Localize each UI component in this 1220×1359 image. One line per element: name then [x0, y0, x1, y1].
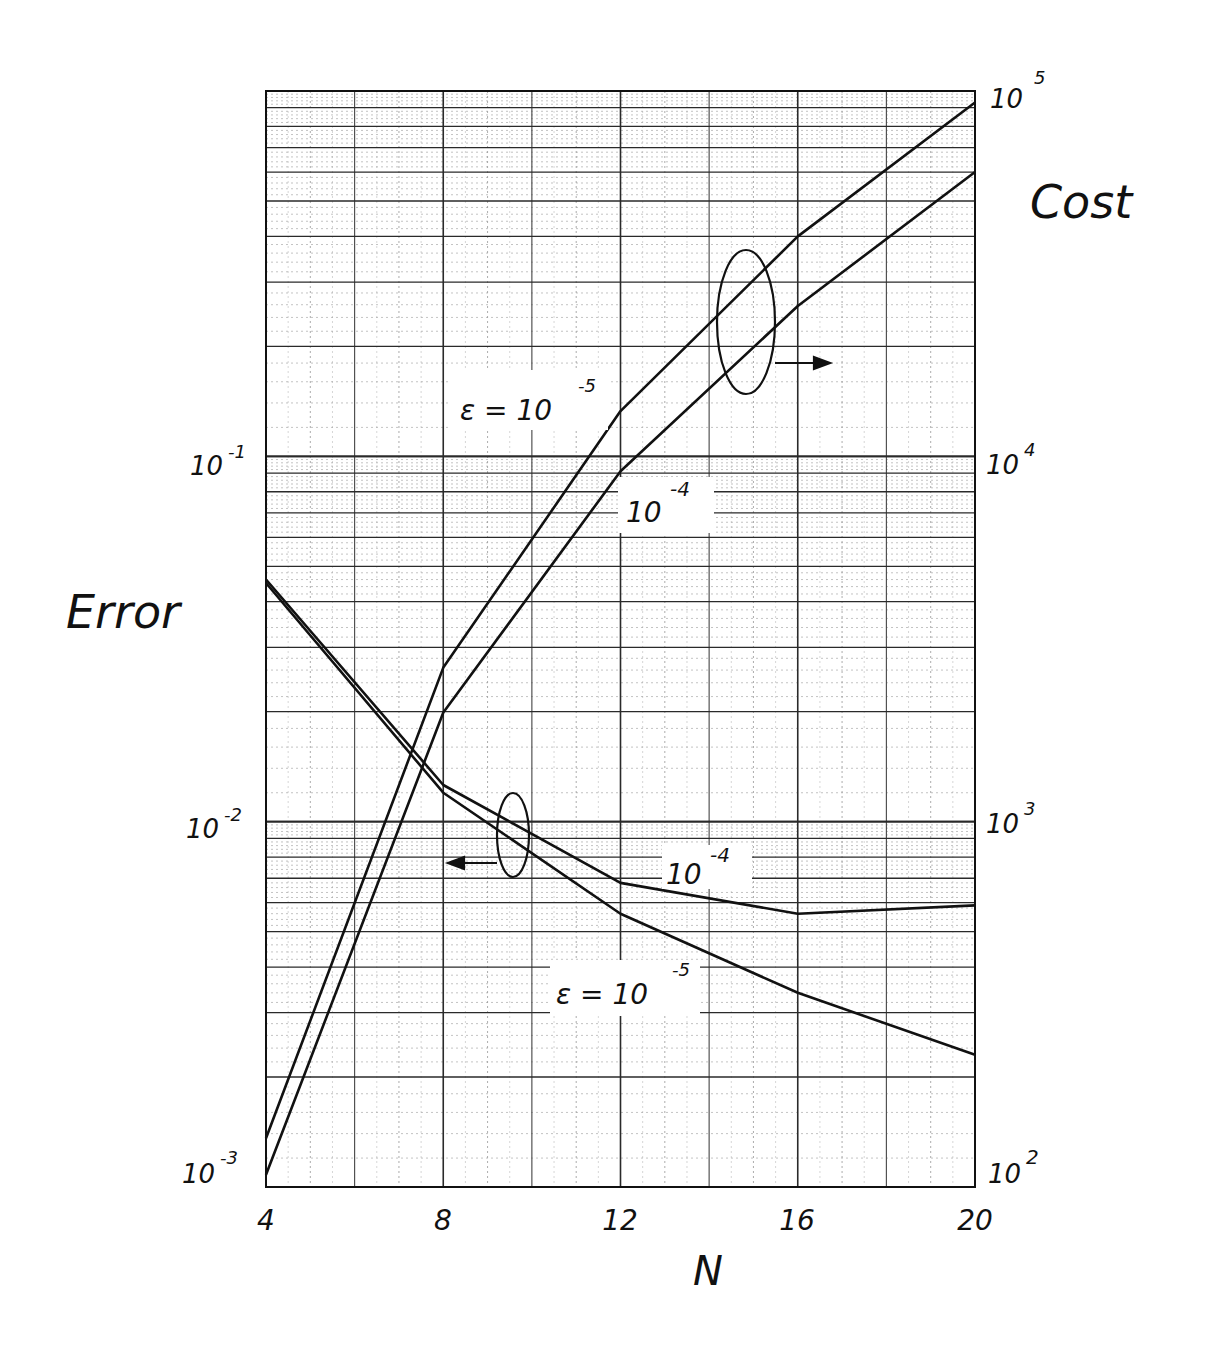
x-tick-8: 8	[434, 1204, 452, 1237]
y-left-tick-1e-3: 10 -3	[182, 1147, 238, 1189]
x-tick-4: 4	[257, 1204, 275, 1237]
x-tick-20: 20	[957, 1204, 993, 1237]
svg-text:ε = 10: ε = 10	[460, 394, 552, 427]
y-right-tick-1e3: 10 3	[986, 798, 1035, 839]
svg-text:-5: -5	[578, 375, 596, 396]
svg-text:-3: -3	[220, 1147, 238, 1168]
y-right-tick-1e4: 10 4	[986, 439, 1035, 480]
svg-text:-4: -4	[710, 843, 730, 867]
svg-text:10: 10	[986, 450, 1019, 480]
y-right-tick-1e5: 10 5	[990, 67, 1045, 114]
svg-text:10: 10	[182, 1159, 215, 1189]
svg-text:-4: -4	[670, 477, 690, 501]
svg-text:-5: -5	[672, 959, 690, 980]
svg-text:-1: -1	[228, 441, 246, 462]
svg-text:-2: -2	[224, 804, 242, 825]
chart: 10 -1 10 -2 10 -3 10 5 10 4 10 3 10 2 4 …	[0, 0, 1220, 1359]
y-left-axis-title: Error	[66, 585, 183, 639]
svg-text:4: 4	[1024, 439, 1035, 460]
svg-text:10: 10	[190, 451, 223, 481]
y-left-tick-1e-1: 10 -1	[190, 441, 246, 481]
y-left-tick-1e-2: 10 -2	[186, 804, 242, 844]
x-axis-title: N	[693, 1248, 723, 1294]
svg-text:2: 2	[1026, 1145, 1039, 1169]
y-right-axis-title: Cost	[1030, 175, 1134, 229]
x-tick-12: 12	[602, 1204, 638, 1237]
svg-text:10: 10	[626, 496, 662, 529]
y-right-tick-1e2: 10 2	[988, 1145, 1039, 1189]
grid-major	[266, 91, 975, 1187]
x-tick-16: 16	[779, 1204, 815, 1237]
svg-text:3: 3	[1024, 798, 1035, 819]
svg-text:5: 5	[1034, 67, 1045, 88]
svg-text:10: 10	[986, 809, 1019, 839]
svg-text:10: 10	[666, 858, 702, 891]
svg-text:10: 10	[990, 84, 1023, 114]
svg-text:10: 10	[988, 1159, 1021, 1189]
cost-axis-indicator	[717, 250, 830, 394]
svg-text:10: 10	[186, 814, 219, 844]
svg-text:ε = 10: ε = 10	[556, 978, 648, 1011]
